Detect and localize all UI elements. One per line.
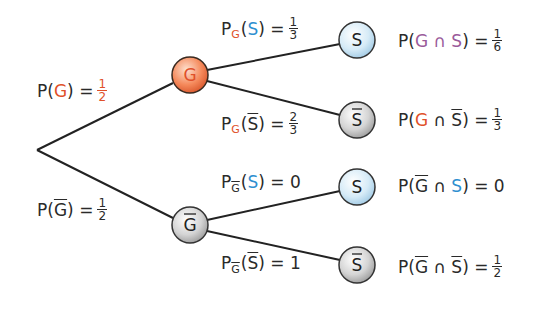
node-G-not-S: S [339, 102, 375, 138]
paren: ) [462, 110, 469, 130]
node-not-G-not-S: S [339, 247, 375, 283]
paren: ( [408, 176, 415, 196]
subscript-not-g: G [231, 263, 240, 276]
svg-text:G: G [183, 65, 196, 85]
label-p-g: P(G) = 12 [37, 78, 107, 103]
svg-text:S: S [352, 30, 363, 50]
fraction: 13 [492, 107, 502, 132]
equals: = [270, 253, 284, 273]
branch-G-S [207, 44, 340, 70]
p-symbol: P [398, 110, 408, 130]
paren: ( [241, 114, 248, 134]
paren: ) [258, 19, 265, 39]
paren: ( [241, 172, 248, 192]
intersection: ∩ [434, 257, 446, 277]
node-not-G: G [172, 207, 208, 243]
paren: ) [258, 253, 265, 273]
value: 1 [290, 253, 301, 273]
subscript-not-g: G [231, 182, 240, 195]
intersection: ∩ [434, 31, 446, 51]
denominator: 3 [493, 120, 501, 132]
p-symbol: P [221, 19, 231, 39]
fraction: 16 [492, 28, 502, 53]
event-s: S [451, 176, 462, 196]
equals: = [79, 81, 93, 101]
fraction: 12 [97, 197, 107, 222]
fraction: 13 [289, 16, 299, 41]
equals: = [474, 176, 488, 196]
paren: ) [462, 176, 469, 196]
paren: ( [241, 19, 248, 39]
node-not-G-S: S [339, 169, 375, 205]
paren: ) [462, 257, 469, 277]
fraction: 12 [492, 254, 502, 279]
label-pg-s: PG(S) = 13 [221, 16, 298, 41]
p-symbol: P [398, 257, 408, 277]
p-symbol: P [398, 176, 408, 196]
event-not-s: S [247, 114, 258, 134]
equals: = [79, 200, 93, 220]
fraction: 12 [97, 78, 107, 103]
paren: ) [258, 114, 265, 134]
event-not-g: G [54, 200, 67, 220]
branch-G-notS [207, 81, 340, 115]
paren: ( [408, 257, 415, 277]
label-joint-not-g-s: P(G ∩ S) = 0 [398, 176, 505, 196]
svg-text:S: S [352, 177, 363, 197]
label-pnotg-s: PG(S) = 0 [221, 172, 301, 192]
label-pnotg-not-s: PG(S) = 1 [221, 253, 301, 273]
denominator: 3 [290, 124, 298, 136]
paren: ( [408, 110, 415, 130]
node-G-S: S [339, 22, 375, 58]
denominator: 6 [493, 41, 501, 53]
denominator: 2 [493, 267, 501, 279]
equals: = [270, 19, 284, 39]
p-symbol: P [37, 200, 47, 220]
branch-notG-S [207, 191, 340, 220]
label-p-not-g: P(G) = 12 [37, 197, 107, 222]
intersection: ∩ [434, 176, 446, 196]
denominator: 3 [290, 29, 298, 41]
event-not-s: S [451, 257, 462, 277]
paren: ( [47, 81, 54, 101]
node-G: G [172, 57, 208, 93]
event-not-g: G [415, 257, 428, 277]
event-g: G [415, 110, 428, 130]
subscript-g: G [231, 123, 240, 136]
equals: = [474, 257, 488, 277]
event-not-g: G [415, 176, 428, 196]
equals: = [474, 31, 488, 51]
fraction: 23 [289, 111, 299, 136]
denominator: 2 [98, 210, 106, 222]
event-s: S [451, 31, 462, 51]
value: 0 [494, 176, 505, 196]
label-joint-not-g-not-s: P(G ∩ S) = 12 [398, 254, 502, 279]
event-not-s: S [451, 110, 462, 130]
intersection: ∩ [434, 110, 446, 130]
value: 0 [290, 172, 301, 192]
svg-text:G: G [183, 215, 196, 235]
denominator: 2 [98, 91, 106, 103]
equals: = [474, 110, 488, 130]
paren: ( [408, 31, 415, 51]
svg-text:S: S [352, 110, 363, 130]
p-symbol: P [37, 81, 47, 101]
p-symbol: P [221, 172, 231, 192]
label-pg-not-s: PG(S) = 23 [221, 111, 298, 136]
event-s: S [247, 172, 258, 192]
p-symbol: P [221, 114, 231, 134]
paren: ) [67, 200, 74, 220]
label-joint-g-not-s: P(G ∩ S) = 13 [398, 107, 502, 132]
paren: ) [462, 31, 469, 51]
equals: = [270, 114, 284, 134]
paren: ) [258, 172, 265, 192]
event-s: S [247, 19, 258, 39]
paren: ) [67, 81, 74, 101]
event-g: G [415, 31, 428, 51]
p-symbol: P [398, 31, 408, 51]
equals: = [270, 172, 284, 192]
paren: ( [47, 200, 54, 220]
svg-text:S: S [352, 255, 363, 275]
paren: ( [241, 253, 248, 273]
subscript-g: G [231, 28, 240, 41]
